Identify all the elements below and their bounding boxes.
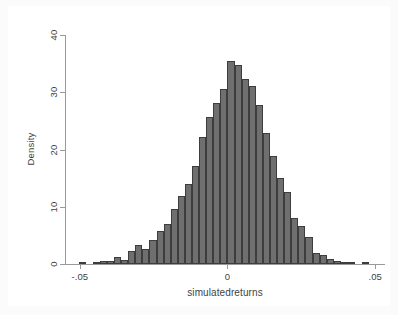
y-axis-line (65, 35, 66, 265)
histogram-bar (277, 178, 284, 264)
y-tick-10 (60, 207, 65, 208)
x-tick--.05 (80, 264, 81, 269)
y-tick-30 (60, 92, 65, 93)
histogram-bar (284, 192, 291, 264)
histogram-bar (320, 255, 327, 264)
histogram-bar (192, 166, 199, 264)
histogram-bar (199, 137, 206, 264)
y-tick-label: 0 (48, 261, 59, 266)
histogram-bar (235, 65, 242, 264)
histogram-bars (65, 35, 384, 264)
x-tick-label: 0 (225, 271, 230, 282)
x-axis-line (65, 264, 385, 265)
histogram-bar (142, 249, 149, 264)
y-tick-20 (60, 150, 65, 151)
histogram-bar (263, 133, 270, 264)
histogram-bar (114, 257, 121, 264)
histogram-bar (164, 224, 171, 264)
x-tick-.05 (375, 264, 376, 269)
histogram-bar (206, 117, 213, 264)
histogram-bar (305, 237, 312, 264)
y-tick-label: 40 (48, 30, 59, 41)
y-tick-label: 10 (48, 201, 59, 212)
histogram-bar (220, 89, 227, 264)
histogram-figure: 010203040 -.050.05 Density simulatedretu… (0, 0, 398, 315)
histogram-bar (178, 196, 185, 264)
histogram-bar (227, 61, 234, 264)
y-tick-label: 30 (48, 87, 59, 98)
y-tick-0 (60, 264, 65, 265)
histogram-bar (298, 226, 305, 264)
histogram-bar (213, 103, 220, 264)
y-tick-40 (60, 35, 65, 36)
x-tick-0 (227, 264, 228, 269)
histogram-bar (242, 79, 249, 264)
plot-canvas: 010203040 -.050.05 Density simulatedretu… (8, 6, 390, 306)
histogram-bar (313, 253, 320, 264)
histogram-bar (135, 245, 142, 264)
y-tick-label: 20 (48, 144, 59, 155)
x-axis-title: simulatedreturns (187, 287, 263, 298)
x-tick-label: -.05 (72, 271, 88, 282)
histogram-bar (149, 240, 156, 264)
histogram-bar (185, 184, 192, 264)
histogram-bar (157, 231, 164, 264)
histogram-bar (249, 86, 256, 264)
histogram-bar (171, 209, 178, 264)
histogram-bar (291, 218, 298, 264)
x-tick-label: .05 (369, 271, 382, 282)
histogram-bar (270, 156, 277, 264)
y-axis-title: Density (25, 132, 36, 165)
histogram-bar (128, 251, 135, 264)
histogram-bar (256, 105, 263, 264)
plot-region (65, 35, 384, 264)
